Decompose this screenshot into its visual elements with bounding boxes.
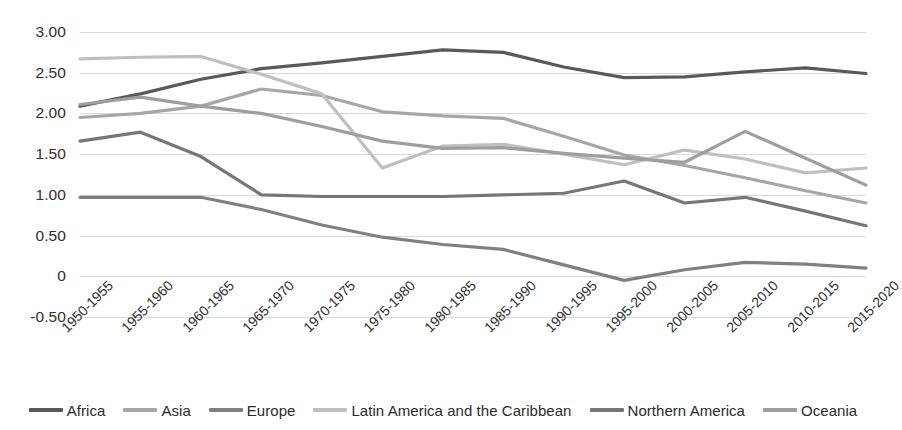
series-line-africa	[80, 50, 866, 106]
legend-item-europe[interactable]: Europe	[209, 402, 296, 419]
legend-item-oceania[interactable]: Oceania	[763, 402, 857, 419]
legend-label: Latin America and the Caribbean	[351, 402, 571, 419]
legend-item-asia[interactable]: Asia	[123, 402, 190, 419]
legend-item-latin-america-and-the-caribbean[interactable]: Latin America and the Caribbean	[313, 402, 571, 419]
legend-swatch-icon	[763, 408, 797, 412]
legend-swatch-icon	[590, 408, 624, 412]
x-axis-labels: 1950-19551955-19601960-19651965-19701970…	[0, 318, 886, 396]
y-axis-tick-label: 0	[57, 267, 66, 285]
legend-swatch-icon	[29, 408, 63, 412]
legend-swatch-icon	[123, 408, 157, 412]
y-axis-tick-label: 1.00	[35, 186, 66, 204]
y-axis-tick-label: 2.50	[35, 64, 66, 82]
legend-label: Africa	[67, 402, 106, 419]
legend-swatch-icon	[313, 408, 347, 412]
y-axis-tick-label: 0.50	[35, 227, 66, 245]
legend-item-northern-america[interactable]: Northern America	[590, 402, 746, 419]
y-axis-tick-label: 3.00	[35, 23, 66, 41]
plot-area	[80, 32, 866, 317]
legend-label: Asia	[161, 402, 190, 419]
legend-label: Oceania	[801, 402, 857, 419]
y-axis-tick-label: 1.50	[35, 145, 66, 163]
y-axis-tick-label: 2.00	[35, 104, 66, 122]
series-line-oceania	[80, 97, 866, 185]
chart-legend: AfricaAsiaEuropeLatin America and the Ca…	[0, 396, 886, 424]
series-line-europe	[80, 197, 866, 280]
legend-swatch-icon	[209, 408, 243, 412]
legend-label: Northern America	[628, 402, 746, 419]
legend-item-africa[interactable]: Africa	[29, 402, 106, 419]
legend-label: Europe	[247, 402, 296, 419]
series-lines	[80, 32, 866, 317]
